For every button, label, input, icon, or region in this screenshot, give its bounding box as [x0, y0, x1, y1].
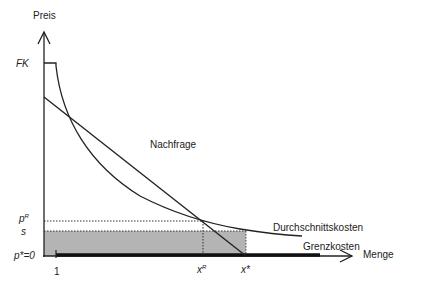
- x-tick-one-label: 1: [54, 266, 60, 277]
- fk-label: FK: [16, 58, 29, 69]
- demand-label: Nachfrage: [150, 139, 196, 150]
- pr-label: pR: [19, 213, 29, 224]
- shaded-revenue-area: [44, 231, 246, 256]
- average-cost-label: Durchschnittskosten: [273, 222, 363, 233]
- pstar-label: p*=0: [14, 250, 35, 261]
- y-axis-label: Preis: [33, 10, 56, 21]
- xr-label: xR: [197, 264, 206, 275]
- price-quantity-diagram: [0, 0, 446, 285]
- s-label: s: [21, 226, 26, 237]
- xstar-label: x*: [241, 264, 250, 275]
- x-axis-label: Menge: [363, 249, 394, 260]
- marginal-cost-label: Grenzkosten: [303, 241, 360, 252]
